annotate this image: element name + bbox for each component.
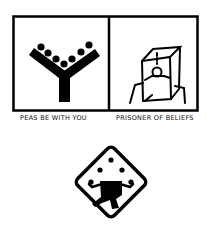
juggler-warning-sign-icon [66,137,156,227]
panel-2-caption: PRISONER OF BELIEFS [116,114,194,122]
comic-panels [12,15,199,112]
y-shape-with-peas-icon [29,41,100,102]
panel-frame [12,15,199,112]
panel-1-caption: PEAS BE WITH YOU [20,114,87,122]
person-in-box-icon [130,47,185,103]
